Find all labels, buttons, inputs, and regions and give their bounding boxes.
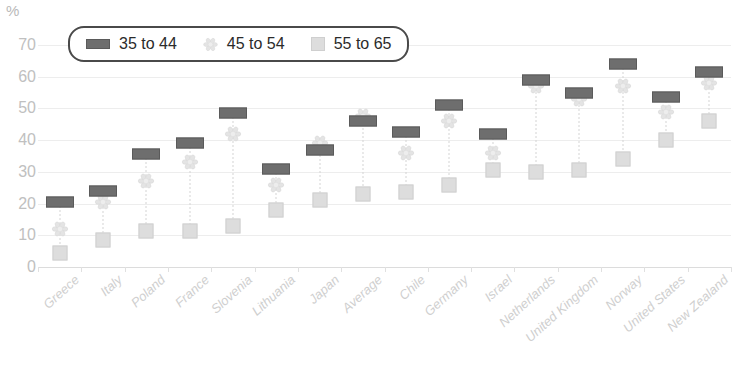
- marker-55-to-65[interactable]: [442, 177, 457, 192]
- range-connector-line: [146, 154, 147, 230]
- marker-45-to-54[interactable]: [224, 125, 241, 142]
- marker-45-to-54[interactable]: [51, 220, 68, 237]
- x-axis-label-poland: Poland: [128, 272, 168, 310]
- x-axis-label-israel: Israel: [481, 272, 515, 304]
- marker-55-to-65[interactable]: [182, 223, 197, 238]
- x-axis-label-france: France: [172, 272, 212, 310]
- marker-35-to-44[interactable]: [46, 196, 74, 207]
- marker-35-to-44[interactable]: [306, 144, 334, 155]
- data-column[interactable]: [558, 0, 601, 268]
- marker-45-to-54[interactable]: [138, 173, 155, 190]
- x-axis-label-slovenia: Slovenia: [208, 272, 255, 317]
- marker-35-to-44[interactable]: [176, 138, 204, 149]
- marker-55-to-65[interactable]: [355, 187, 370, 202]
- y-axis-tick-label: 60: [4, 68, 36, 86]
- y-axis-tick-label: 40: [4, 131, 36, 149]
- y-axis-tick-label: 30: [4, 163, 36, 181]
- marker-45-to-54[interactable]: [614, 78, 631, 95]
- square-marker-icon: [311, 37, 325, 51]
- marker-35-to-44[interactable]: [522, 74, 550, 85]
- data-column[interactable]: [601, 0, 644, 268]
- data-column[interactable]: [514, 0, 557, 268]
- flower-marker-icon: [203, 37, 218, 52]
- marker-35-to-44[interactable]: [132, 149, 160, 160]
- marker-55-to-65[interactable]: [225, 218, 240, 233]
- marker-55-to-65[interactable]: [615, 152, 630, 167]
- marker-35-to-44[interactable]: [349, 116, 377, 127]
- marker-55-to-65[interactable]: [139, 223, 154, 238]
- x-axis-label-average: Average: [339, 272, 385, 315]
- marker-45-to-54[interactable]: [398, 144, 415, 161]
- legend-item[interactable]: 45 to 54: [203, 35, 285, 53]
- legend-label: 55 to 65: [334, 35, 392, 53]
- marker-45-to-54[interactable]: [268, 176, 285, 193]
- marker-35-to-44[interactable]: [262, 163, 290, 174]
- y-axis-tick-label: 10: [4, 226, 36, 244]
- chart-legend: 35 to 4445 to 5455 to 65: [68, 26, 409, 62]
- marker-55-to-65[interactable]: [312, 193, 327, 208]
- marker-45-to-54[interactable]: [441, 113, 458, 130]
- x-axis-label-greece: Greece: [40, 272, 82, 312]
- marker-45-to-54[interactable]: [658, 103, 675, 120]
- chart-container: % 010203040506070 GreeceItalyPolandFranc…: [0, 0, 733, 369]
- x-axis-label-chile: Chile: [396, 272, 428, 303]
- marker-55-to-65[interactable]: [95, 233, 110, 248]
- marker-35-to-44[interactable]: [392, 127, 420, 138]
- x-axis: GreeceItalyPolandFranceSloveniaLithuania…: [38, 268, 731, 369]
- x-axis-label-lithuania: Lithuania: [249, 272, 298, 318]
- range-connector-line: [406, 132, 407, 192]
- marker-55-to-65[interactable]: [399, 185, 414, 200]
- marker-35-to-44[interactable]: [652, 92, 680, 103]
- marker-35-to-44[interactable]: [479, 128, 507, 139]
- marker-55-to-65[interactable]: [702, 114, 717, 129]
- bar-marker-icon: [86, 39, 110, 49]
- y-axis-tick-label: 50: [4, 99, 36, 117]
- y-axis-tick-label: 20: [4, 195, 36, 213]
- marker-55-to-65[interactable]: [529, 164, 544, 179]
- x-axis-label-italy: Italy: [97, 272, 125, 299]
- x-axis-label-japan: Japan: [305, 272, 341, 307]
- x-axis-tickmark: [731, 267, 732, 272]
- y-axis-tick-label: 70: [4, 36, 36, 54]
- marker-45-to-54[interactable]: [181, 154, 198, 171]
- marker-55-to-65[interactable]: [659, 133, 674, 148]
- marker-35-to-44[interactable]: [609, 59, 637, 70]
- data-column[interactable]: [688, 0, 731, 268]
- data-column[interactable]: [428, 0, 471, 268]
- data-column[interactable]: [644, 0, 687, 268]
- marker-35-to-44[interactable]: [219, 108, 247, 119]
- y-axis-tick-label: 0: [4, 258, 36, 276]
- legend-item[interactable]: 35 to 44: [86, 35, 177, 53]
- marker-35-to-44[interactable]: [89, 185, 117, 196]
- marker-55-to-65[interactable]: [269, 202, 284, 217]
- marker-35-to-44[interactable]: [695, 66, 723, 77]
- marker-35-to-44[interactable]: [565, 87, 593, 98]
- marker-55-to-65[interactable]: [485, 163, 500, 178]
- marker-35-to-44[interactable]: [435, 100, 463, 111]
- legend-label: 35 to 44: [119, 35, 177, 53]
- x-axis-label-germany: Germany: [422, 272, 472, 319]
- y-axis: 010203040506070: [0, 0, 36, 369]
- legend-label: 45 to 54: [227, 35, 285, 53]
- marker-55-to-65[interactable]: [52, 245, 67, 260]
- legend-item[interactable]: 55 to 65: [311, 35, 392, 53]
- data-column[interactable]: [471, 0, 514, 268]
- marker-45-to-54[interactable]: [484, 144, 501, 161]
- range-connector-line: [362, 116, 363, 194]
- marker-55-to-65[interactable]: [572, 163, 587, 178]
